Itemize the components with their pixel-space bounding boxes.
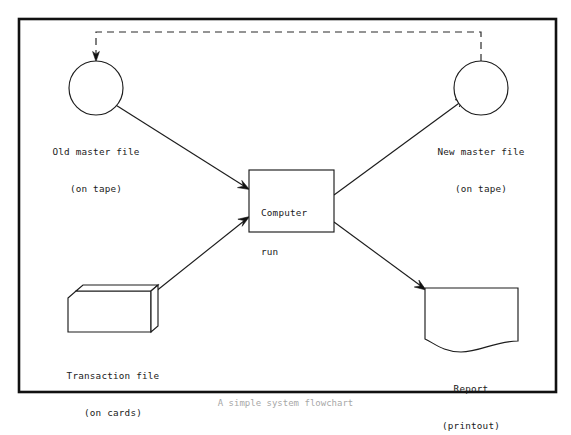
node-new-master-file-symbol [454, 61, 508, 115]
connector-computer-run-to-new-master [334, 97, 467, 195]
label-report-line2: (printout) [389, 420, 553, 432]
node-report-symbol [425, 288, 518, 352]
node-computer-run-symbol [249, 170, 334, 232]
node-transaction-file-symbol [68, 285, 158, 332]
connector-computer-run-to-report [334, 222, 426, 290]
connector-old-master-to-computer-run [117, 106, 250, 190]
arrowhead-into-computer-run-top [238, 180, 250, 189]
arrowhead-into-report [414, 280, 426, 290]
figure-caption: A simple system flowchart [0, 398, 571, 410]
connector-new-master-to-old-master-feedback [93, 32, 481, 62]
connector-transaction-file-to-computer-run [155, 217, 250, 292]
node-old-master-file-symbol [69, 61, 123, 115]
